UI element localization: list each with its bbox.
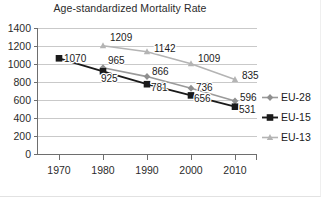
- x-tick-label: 1980: [91, 164, 115, 176]
- y-tick-label: 1400: [8, 22, 32, 34]
- legend-item-eu-15[interactable]: EU-15: [262, 111, 311, 123]
- diamond-marker: [267, 94, 274, 101]
- data-label: 835: [242, 70, 259, 81]
- y-tick-label: 1200: [8, 40, 32, 52]
- series-eu-28: [100, 64, 239, 104]
- data-label: 866: [152, 66, 169, 77]
- axis-lines: [38, 29, 257, 155]
- data-label: 596: [240, 92, 257, 103]
- diamond-marker: [232, 97, 239, 104]
- data-label: 1142: [154, 43, 176, 54]
- triangle-marker: [100, 42, 106, 48]
- chart-container: Age-standardized Mortality Rate: [0, 0, 321, 197]
- legend-label: EU-15: [281, 111, 311, 123]
- y-axis-labels: 1400 1200 1000 800 600 400 200 0: [8, 22, 32, 160]
- y-tick-label: 800: [13, 76, 31, 88]
- square-marker: [232, 103, 239, 110]
- data-label: 736: [196, 82, 213, 93]
- legend-item-eu-13[interactable]: EU-13: [262, 131, 311, 143]
- legend-label: EU-28: [281, 91, 311, 103]
- data-label: 1209: [110, 32, 133, 43]
- x-tick-label: 1970: [47, 164, 71, 176]
- data-label: 531: [239, 104, 256, 115]
- data-label: 781: [151, 82, 168, 93]
- y-tick-label: 1000: [8, 58, 32, 70]
- legend-item-eu-28[interactable]: EU-28: [262, 91, 311, 103]
- y-tick-label: 600: [13, 94, 31, 106]
- x-tick-label: 1990: [135, 164, 159, 176]
- x-axis-ticks: [60, 155, 257, 160]
- chart-plot-area: 1400 1200 1000 800 600 400 200 0 1970 19…: [0, 0, 321, 197]
- legend-label: EU-13: [281, 131, 311, 143]
- chart-legend: EU-28 EU-15 EU-13: [262, 91, 311, 143]
- x-tick-label: 2010: [223, 164, 247, 176]
- y-axis-ticks: [34, 29, 38, 155]
- data-label: 925: [101, 73, 118, 84]
- data-label: 1009: [198, 53, 221, 64]
- square-marker: [267, 114, 274, 121]
- square-marker: [144, 81, 151, 88]
- data-label: 965: [108, 55, 125, 66]
- y-tick-label: 0: [25, 148, 31, 160]
- diamond-marker: [188, 85, 195, 92]
- data-label: 1070: [64, 53, 87, 64]
- data-label: 656: [194, 93, 211, 104]
- y-tick-label: 400: [13, 112, 31, 124]
- diamond-marker: [144, 73, 151, 80]
- square-marker: [56, 55, 63, 62]
- x-axis-labels: 1970 1980 1990 2000 2010: [47, 164, 247, 176]
- y-tick-label: 200: [13, 130, 31, 142]
- x-tick-label: 2000: [179, 164, 203, 176]
